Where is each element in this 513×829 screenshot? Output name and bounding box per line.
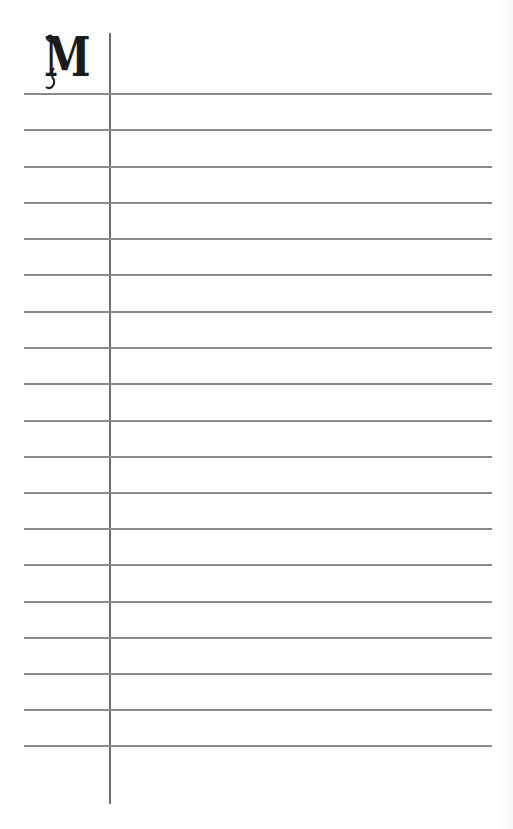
ruled-line <box>24 238 492 240</box>
ruled-line <box>24 492 492 494</box>
margin-line <box>109 33 111 804</box>
ruled-line <box>24 709 492 711</box>
ruled-line <box>24 311 492 313</box>
ruled-line <box>24 564 492 566</box>
ruled-line <box>24 601 492 603</box>
notepad-page: M <box>0 0 513 829</box>
ruled-line <box>24 202 492 204</box>
ruled-line <box>24 383 492 385</box>
ruled-line <box>24 528 492 530</box>
ruled-line <box>24 129 492 131</box>
ruled-line <box>24 166 492 168</box>
ruled-line <box>24 274 492 276</box>
ruled-line <box>24 93 492 95</box>
ruled-line <box>24 637 492 639</box>
monogram-letter: M <box>44 30 90 84</box>
ruled-line <box>24 420 492 422</box>
ruled-line <box>24 745 492 747</box>
ruled-line <box>24 347 492 349</box>
page-edge-shadow <box>499 0 513 829</box>
ruled-line <box>24 456 492 458</box>
ruled-line <box>24 673 492 675</box>
